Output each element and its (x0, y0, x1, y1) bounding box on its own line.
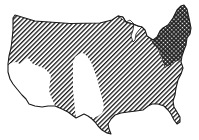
us-map-svg (0, 0, 199, 140)
us-map: Contiguous United States regional shadin… (0, 0, 199, 140)
